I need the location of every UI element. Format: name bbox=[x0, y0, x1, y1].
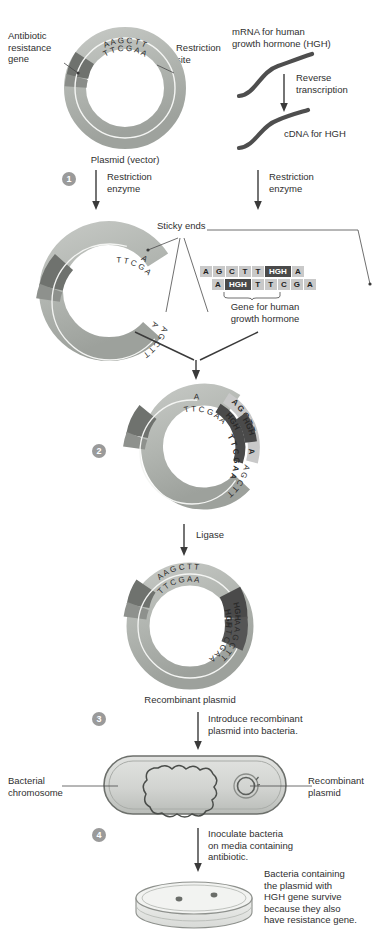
arrow-converge-step2 bbox=[130, 330, 270, 382]
chip-base: A bbox=[304, 279, 316, 290]
brace-hgh-gene bbox=[222, 291, 286, 301]
label-recombinant-plasmid-right: Recombinant plasmid bbox=[308, 775, 374, 798]
chip-base: T bbox=[252, 266, 265, 277]
chip-base: T bbox=[252, 279, 265, 290]
label-bacterial-chromosome: Bacterial chromosome bbox=[8, 775, 70, 798]
label-gene-for-hgh: Gene for human growth hormone bbox=[210, 301, 320, 324]
chip-base: C bbox=[226, 266, 239, 277]
chip-hgh-gene: HGH bbox=[225, 279, 252, 290]
insert-fragment-a-top: A bbox=[247, 448, 256, 455]
leader-lines-plasmid bbox=[0, 25, 250, 95]
colony bbox=[211, 893, 218, 898]
plasmid-with-insert-icon: A T T C G A A A G C T T HGH A HGH T T C … bbox=[130, 378, 282, 518]
chip-base: T bbox=[239, 266, 252, 277]
label-ligase: Ligase bbox=[196, 529, 224, 541]
arrow-down-icon-step4 bbox=[192, 826, 206, 874]
label-reverse-transcription: Reverse transcription bbox=[296, 72, 368, 95]
label-mrna-hgh: mRNA for human growth hormone (HGH) bbox=[232, 26, 372, 49]
petri-dish-icon bbox=[132, 874, 256, 936]
chip-base: G bbox=[213, 266, 226, 277]
recombinant-plasmid-icon: A A G C T T HGH A A G C T T T T C G A A … bbox=[118, 556, 262, 696]
arrow-down-icon-step3 bbox=[192, 710, 206, 752]
label-inoculate: Inoculate bacteria on media containing a… bbox=[208, 828, 358, 863]
label-introduce-plasmid: Introduce recombinant plasmid into bacte… bbox=[208, 713, 358, 736]
label-restriction-enzyme-right: Restriction enzyme bbox=[269, 171, 339, 194]
chip-base: A bbox=[212, 279, 225, 290]
label-recombinant-plasmid: Recombinant plasmid bbox=[110, 694, 270, 706]
step-number-2: 2 bbox=[92, 444, 106, 458]
chip-base: A bbox=[292, 266, 304, 277]
arrow-down-icon-ligase bbox=[178, 522, 192, 558]
chip-base: A bbox=[200, 266, 213, 277]
chip-base: G bbox=[291, 279, 304, 290]
chip-hgh-gene: HGH bbox=[265, 266, 292, 277]
fragment-bottom-strand: A HGH T T C G A bbox=[212, 279, 316, 290]
label-cdna-hgh: cDNA for HGH bbox=[284, 128, 374, 140]
colony bbox=[176, 897, 183, 902]
label-restriction-enzyme-left: Restriction enzyme bbox=[107, 171, 177, 194]
step-number-3: 3 bbox=[92, 712, 106, 726]
arrow-down-icon-step1-right bbox=[252, 168, 266, 212]
label-survive-note: Bacteria containing the plasmid with HGH… bbox=[264, 868, 372, 926]
arrow-down-icon-step1 bbox=[90, 168, 104, 212]
fragment-top-strand: A G C T T HGH A bbox=[200, 266, 304, 277]
chip-base: T bbox=[265, 279, 278, 290]
step-number-4: 4 bbox=[92, 828, 106, 842]
step-number-1: 1 bbox=[62, 172, 76, 186]
chip-base: C bbox=[278, 279, 291, 290]
label-plasmid-vector: Plasmid (vector) bbox=[62, 154, 188, 166]
